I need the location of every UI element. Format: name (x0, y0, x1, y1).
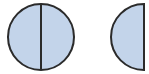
half-circle-group (111, 4, 144, 70)
fraction-diagram (0, 0, 149, 74)
full-circle-divided (8, 4, 74, 70)
half-circle (111, 4, 144, 70)
